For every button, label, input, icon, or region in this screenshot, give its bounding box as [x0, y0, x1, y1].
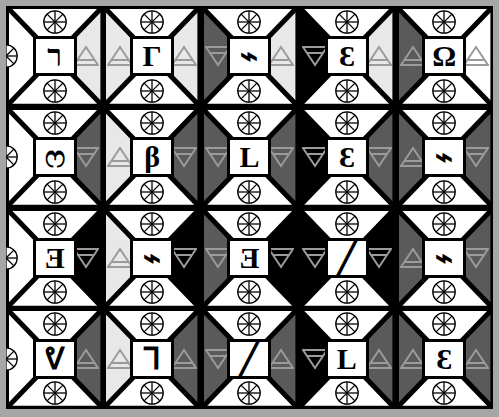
tile-r3-c1[interactable]: Ꞁ	[103, 308, 200, 409]
zigzag-bolt-glyph: ⌁	[435, 243, 453, 273]
triangle-down-icon	[73, 145, 99, 169]
tile-r3-c0[interactable]: ᕓ	[6, 308, 103, 409]
epsilon-glyph: Ɛ	[339, 142, 355, 172]
tile-r0-c3[interactable]: Ɛ	[298, 6, 395, 107]
glyph-cell[interactable]: Ω	[422, 36, 466, 76]
triangle-down-icon	[463, 145, 489, 169]
tile-r2-c2[interactable]: Ǝ	[201, 208, 298, 309]
tile-r1-c1[interactable]: β	[103, 107, 200, 208]
tile-r3-c3[interactable]: L	[298, 308, 395, 409]
triangle-up-icon	[73, 347, 99, 371]
triangle-down-icon	[366, 145, 392, 169]
spoked-wheel-icon	[334, 211, 360, 237]
tile-r3-c2[interactable]: ╱	[201, 308, 298, 409]
spoked-wheel-icon	[42, 9, 68, 35]
tile-r1-c3[interactable]: Ɛ	[298, 107, 395, 208]
spoked-wheel-icon	[334, 179, 360, 205]
glyph-cell[interactable]: Ǝ	[33, 238, 77, 278]
spoked-wheel-icon	[139, 179, 165, 205]
triangle-up-icon	[73, 44, 99, 68]
reversed-e-glyph: Ǝ	[239, 243, 259, 273]
spoked-wheel-icon	[236, 9, 262, 35]
glyph-cell[interactable]: Ɛ	[422, 339, 466, 379]
tile-r1-c0[interactable]: ෆ	[6, 107, 103, 208]
spoked-wheel-icon	[431, 110, 457, 136]
tile-r2-c4[interactable]: ⌁	[396, 208, 493, 309]
spoked-wheel-icon	[139, 110, 165, 136]
slash-stroke-glyph: ╱	[338, 243, 356, 273]
glyph-cell[interactable]: ᕓ	[33, 339, 77, 379]
spoked-wheel-icon	[42, 380, 68, 406]
ell-glyph: L	[239, 142, 259, 172]
spoked-wheel-icon	[236, 380, 262, 406]
tile-r0-c2[interactable]: ⌁	[201, 6, 298, 107]
spoked-wheel-icon	[139, 279, 165, 305]
vee-hook-glyph: ᕓ	[44, 344, 65, 374]
triangle-up-icon	[171, 44, 197, 68]
glyph-cell[interactable]: L	[325, 339, 369, 379]
spoked-wheel-icon	[6, 245, 19, 271]
tile-r1-c4[interactable]: ⌁	[396, 107, 493, 208]
beta-bar-glyph: β	[144, 142, 160, 172]
triangle-up-icon	[171, 347, 197, 371]
zigzag-bolt-glyph: ⌁	[240, 41, 258, 71]
spoked-wheel-icon	[6, 43, 19, 69]
glyph-cell[interactable]: ⌁	[422, 137, 466, 177]
tile-r2-c0[interactable]: Ǝ	[6, 208, 103, 309]
spoked-wheel-icon	[42, 279, 68, 305]
triangle-down-icon	[463, 246, 489, 270]
tile-r0-c0[interactable]: ר	[6, 6, 103, 107]
spoked-wheel-icon	[42, 211, 68, 237]
triangle-down-icon	[171, 246, 197, 270]
spoked-wheel-icon	[236, 78, 262, 104]
spoked-wheel-icon	[334, 380, 360, 406]
triangle-down-icon	[366, 246, 392, 270]
omega-glyph: Ω	[432, 41, 456, 71]
triangle-up-icon	[366, 347, 392, 371]
artwork-board: רΓ⌁ƐΩෆβLƐ⌁Ǝ⌁Ǝ╱⌁ᕓꞀ╱LƐ	[0, 0, 499, 417]
spoked-wheel-icon	[42, 311, 68, 337]
glyph-cell[interactable]: ⌁	[227, 36, 271, 76]
glyph-cell[interactable]: Ꞁ	[130, 339, 174, 379]
glyph-cell[interactable]: ⌁	[422, 238, 466, 278]
tile-r2-c1[interactable]: ⌁	[103, 208, 200, 309]
glyph-cell[interactable]: ⌁	[130, 238, 174, 278]
glyph-cell[interactable]: Γ	[130, 36, 174, 76]
glyph-cell[interactable]: Ɛ	[325, 137, 369, 177]
glyph-cell[interactable]: L	[227, 137, 271, 177]
spoked-wheel-icon	[139, 211, 165, 237]
glyph-cell[interactable]: Ɛ	[325, 36, 369, 76]
tile-r0-c1[interactable]: Γ	[103, 6, 200, 107]
spoked-wheel-icon	[334, 110, 360, 136]
spoked-wheel-icon	[139, 311, 165, 337]
zigzag-bolt-glyph: ⌁	[143, 243, 161, 273]
glyph-cell[interactable]: Ǝ	[227, 238, 271, 278]
tile-r3-c4[interactable]: Ɛ	[396, 308, 493, 409]
glyph-cell[interactable]: ╱	[325, 238, 369, 278]
spoked-wheel-icon	[42, 78, 68, 104]
triangle-up-icon	[366, 44, 392, 68]
spoked-wheel-icon	[236, 110, 262, 136]
glyph-cell[interactable]: ר	[33, 36, 77, 76]
spoked-wheel-icon	[431, 9, 457, 35]
spoked-wheel-icon	[42, 179, 68, 205]
glyph-cell[interactable]: ෆ	[33, 137, 77, 177]
tile-r2-c3[interactable]: ╱	[298, 208, 395, 309]
glyph-cell[interactable]: ╱	[227, 339, 271, 379]
spoked-wheel-icon	[431, 78, 457, 104]
triangle-up-icon	[268, 44, 294, 68]
zed-angle-glyph: Ꞁ	[144, 344, 161, 374]
slash-stroke-glyph: ╱	[240, 344, 258, 374]
spoked-wheel-icon	[139, 78, 165, 104]
spoked-wheel-icon	[236, 179, 262, 205]
tile-r0-c4[interactable]: Ω	[396, 6, 493, 107]
tile-r1-c2[interactable]: L	[201, 107, 298, 208]
spoked-wheel-icon	[139, 9, 165, 35]
spoked-wheel-icon	[431, 279, 457, 305]
triangle-up-icon	[463, 347, 489, 371]
tile-grid: רΓ⌁ƐΩෆβLƐ⌁Ǝ⌁Ǝ╱⌁ᕓꞀ╱LƐ	[6, 6, 493, 409]
glyph-cell[interactable]: β	[130, 137, 174, 177]
spoked-wheel-icon	[6, 144, 19, 170]
spoked-wheel-icon	[334, 279, 360, 305]
triangle-down-icon	[73, 246, 99, 270]
